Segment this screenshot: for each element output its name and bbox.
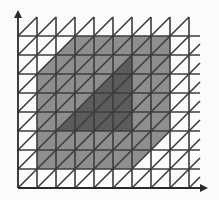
triangulated-grid-diagram: [0, 0, 219, 200]
